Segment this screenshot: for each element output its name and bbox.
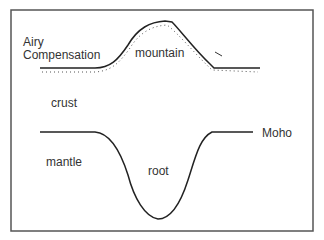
- moho-label: Moho: [262, 126, 292, 140]
- airy-compensation-diagram: [0, 0, 324, 240]
- mantle-label: mantle: [46, 155, 82, 169]
- root-label: root: [148, 164, 169, 178]
- moho-line: [40, 132, 253, 219]
- title-line-2: Compensation: [23, 48, 100, 62]
- mountain-leader: [215, 52, 222, 56]
- diagram-frame: [11, 10, 313, 231]
- title-line-1: Airy: [23, 35, 44, 49]
- mountain-label: mountain: [135, 46, 184, 60]
- crust-label: crust: [51, 96, 77, 110]
